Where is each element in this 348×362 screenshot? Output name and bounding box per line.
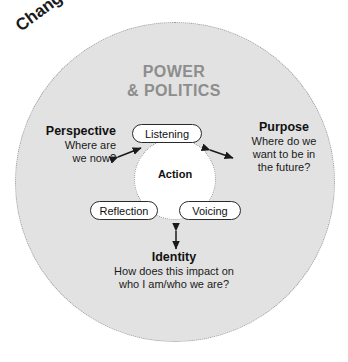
identity-line-1: How does this impact on <box>74 265 274 278</box>
action-label: Action <box>134 168 216 180</box>
purpose-line-1: Where do we <box>234 135 334 148</box>
annotation-purpose: Purpose Where do we want to be in the fu… <box>234 120 334 174</box>
annotation-identity: Identity How does this impact on who I a… <box>74 250 274 291</box>
pill-voicing: Voicing <box>179 201 241 220</box>
diagram-title: POWER & POLITICS <box>0 62 348 100</box>
purpose-heading: Purpose <box>234 120 334 135</box>
identity-line-2: who I am/who we are? <box>74 278 274 291</box>
pill-listening: Listening <box>132 124 202 143</box>
change-ring-label: Change <box>12 0 112 36</box>
change-model-diagram: Change POWER & POLITICS Action Listening… <box>0 0 348 362</box>
pill-reflection: Reflection <box>90 201 158 220</box>
annotation-perspective: Perspective Where are we now? <box>18 124 116 165</box>
title-line-1: POWER <box>143 63 205 80</box>
purpose-line-3: the future? <box>234 161 334 174</box>
title-line-2: & POLITICS <box>0 81 348 100</box>
purpose-line-2: want to be in <box>234 148 334 161</box>
perspective-line-2: we now? <box>18 152 116 165</box>
perspective-line-1: Where are <box>18 139 116 152</box>
identity-heading: Identity <box>74 250 274 265</box>
perspective-heading: Perspective <box>18 124 116 139</box>
